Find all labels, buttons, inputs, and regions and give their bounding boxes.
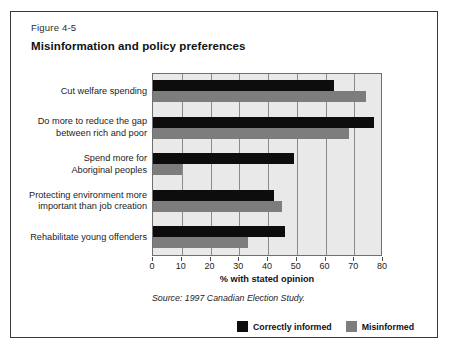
legend-label: Misinformed [362,322,414,332]
x-tick-label: 10 [176,261,186,271]
bar-group [153,184,381,221]
chart-category-labels: Cut welfare spendingDo more to reduce th… [0,74,147,257]
x-tick-label: 80 [377,261,387,271]
figure-number: Figure 4-5 [31,22,76,33]
page-title: Misinformation and policy preferences [31,40,246,52]
legend-label: Correctly informed [253,322,332,332]
chart-legend: Correctly informedMisinformed [237,318,414,335]
bar-group [153,111,381,148]
legend-swatch [237,321,248,332]
legend-item: Correctly informed [237,321,332,332]
x-tick-label: 20 [204,261,214,271]
bar-group [153,220,381,257]
bar-correctly-informed [153,80,334,91]
bar-correctly-informed [153,226,285,237]
bar-correctly-informed [153,117,374,128]
legend-item: Misinformed [346,321,414,332]
chart-x-axis: 01020304050607080 [152,257,382,275]
figure-card: Figure 4-5 Misinformation and policy pre… [10,11,438,338]
bar-misinformed [153,128,349,139]
x-tick-label: 60 [319,261,329,271]
x-tick-label: 30 [233,261,243,271]
category-label: Rehabilitate young offenders [0,232,147,244]
bar-correctly-informed [153,153,294,164]
bar-misinformed [153,164,182,175]
legend-swatch [346,321,357,332]
chart-plot-area: Cut welfare spendingDo more to reduce th… [152,73,382,256]
bar-misinformed [153,201,282,212]
bar-correctly-informed [153,190,274,201]
bar-group [153,74,381,111]
category-label: Do more to reduce the gapbetween rich an… [0,116,147,139]
chart-x-axis-title: % with stated opinion [152,274,382,284]
x-tick-label: 40 [262,261,272,271]
bar-misinformed [153,91,366,102]
x-tick-label: 70 [348,261,358,271]
bar-group [153,147,381,184]
category-label: Protecting environment moreimportant tha… [0,190,147,213]
x-tick-label: 0 [149,261,154,271]
bar-misinformed [153,237,248,248]
category-label: Cut welfare spending [0,86,147,98]
category-label: Spend more forAboriginal peoples [0,153,147,176]
source-note: Source: 1997 Canadian Election Study. [152,293,432,303]
x-tick-label: 50 [291,261,301,271]
